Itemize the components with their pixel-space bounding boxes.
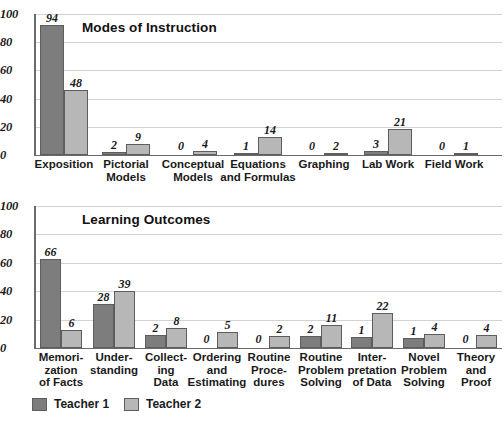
y-axis-tick-label: 80: [0, 35, 29, 50]
bar-value-label: 2: [277, 322, 283, 337]
bar-value-label: 1: [359, 323, 365, 338]
chart-legend: Teacher 1 Teacher 2: [0, 396, 504, 424]
legend-label-teacher-2: Teacher 2: [146, 396, 201, 413]
bar-value-label: 1: [463, 139, 469, 154]
bar-teacher-2: [372, 313, 393, 349]
gridline: [34, 206, 502, 207]
bar-value-label: 0: [178, 139, 184, 154]
bar-teacher-2: [476, 335, 497, 348]
gridline: [34, 234, 502, 235]
bar-teacher-2: [166, 328, 187, 348]
chart-modes-of-instruction: Modes of Instruction 0204060801009448Exp…: [0, 0, 504, 190]
bar-value-label: 6: [69, 316, 75, 331]
y-axis-tick-label: 40: [0, 284, 29, 299]
bar-teacher-2: [269, 336, 290, 348]
bar-teacher-2: [258, 137, 282, 155]
bar-value-label: 0: [309, 139, 315, 154]
legend-swatch-teacher-2: [124, 398, 139, 411]
y-axis-tick-label: 60: [0, 255, 29, 270]
bar-value-label: 1: [411, 324, 417, 339]
bar-value-label: 5: [225, 318, 231, 333]
gridline: [34, 263, 502, 264]
bar-teacher-1: [351, 337, 372, 348]
bar-value-label: 0: [204, 332, 210, 347]
bar-value-label: 22: [377, 299, 389, 314]
bar-teacher-1: [403, 338, 424, 348]
x-axis-category-label: Theory and Proof: [443, 351, 504, 389]
y-axis-tick-label: 20: [0, 119, 29, 134]
bar-teacher-2: [217, 332, 238, 348]
bar-value-label: 4: [484, 321, 490, 336]
gridline: [34, 14, 502, 15]
bar-value-label: 11: [326, 311, 337, 326]
y-axis-line: [34, 14, 36, 156]
y-axis-tick-label: 100: [0, 7, 29, 22]
bar-value-label: 2: [153, 321, 159, 336]
bar-value-label: 2: [308, 322, 314, 337]
y-axis-tick-label: 0: [0, 341, 29, 356]
gridline: [34, 42, 502, 43]
bar-value-label: 9: [135, 130, 141, 145]
bar-teacher-2: [388, 129, 412, 155]
x-axis-category-label: Field Work: [414, 158, 494, 171]
chart-learning-outcomes: Learning Outcomes 020406080100666Memori-…: [0, 190, 504, 395]
bar-value-label: 21: [394, 115, 406, 130]
bar-value-label: 0: [256, 332, 262, 347]
bar-teacher-1: [145, 335, 166, 348]
y-axis-tick-label: 80: [0, 227, 29, 242]
bar-value-label: 14: [264, 123, 276, 138]
bar-value-label: 2: [111, 138, 117, 153]
legend-swatch-teacher-1: [32, 398, 47, 411]
bar-teacher-1: [93, 304, 114, 348]
bar-teacher-2: [424, 334, 445, 348]
bar-value-label: 28: [98, 290, 110, 305]
bar-value-label: 0: [463, 332, 469, 347]
y-axis-tick-label: 40: [0, 91, 29, 106]
bar-value-label: 8: [174, 314, 180, 329]
bar-teacher-2: [64, 90, 88, 155]
bar-teacher-2: [321, 325, 342, 348]
bar-value-label: 3: [373, 137, 379, 152]
bar-value-label: 66: [45, 245, 57, 260]
y-axis-tick-label: 60: [0, 63, 29, 78]
y-axis-tick-label: 20: [0, 312, 29, 327]
gridline: [34, 70, 502, 71]
y-axis-tick-label: 100: [0, 199, 29, 214]
bar-teacher-1: [40, 259, 61, 348]
bar-teacher-1: [40, 25, 64, 155]
chart-title-top: Modes of Instruction: [82, 20, 217, 35]
y-axis-line: [34, 206, 36, 349]
bar-value-label: 94: [46, 11, 58, 26]
bar-value-label: 2: [333, 139, 339, 154]
bar-teacher-1: [300, 336, 321, 348]
legend-label-teacher-1: Teacher 1: [54, 396, 109, 413]
bar-teacher-2: [114, 291, 135, 348]
bar-value-label: 39: [119, 277, 131, 292]
bar-teacher-2: [61, 330, 82, 348]
bar-value-label: 4: [432, 320, 438, 335]
chart-title-bottom: Learning Outcomes: [82, 212, 210, 227]
bar-teacher-2: [126, 144, 150, 155]
gridline: [34, 99, 502, 100]
bar-value-label: 48: [70, 76, 82, 91]
bar-value-label: 4: [202, 137, 208, 152]
bar-value-label: 1: [243, 139, 249, 154]
bar-value-label: 0: [439, 139, 445, 154]
